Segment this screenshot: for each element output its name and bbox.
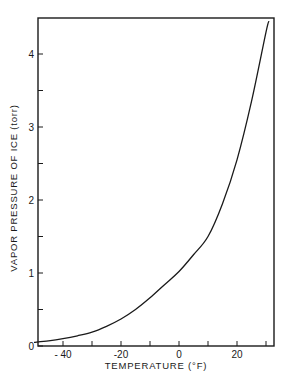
y-tick-label: 0 <box>28 341 34 352</box>
y-tick-label: 1 <box>28 268 34 279</box>
x-tick-label: - 40 <box>54 349 72 360</box>
plot-frame <box>38 18 274 346</box>
y-tick-label: 3 <box>28 122 34 133</box>
x-axis-ticks <box>63 341 266 346</box>
y-axis-ticks <box>38 54 43 346</box>
y-tick-label: 2 <box>28 195 34 206</box>
y-tick-label: 4 <box>28 49 34 60</box>
x-axis-tick-labels: - 40-20020 <box>54 349 243 360</box>
x-tick-label: 20 <box>231 349 243 360</box>
x-tick-label: -20 <box>114 349 129 360</box>
x-tick-label: 0 <box>176 349 182 360</box>
y-axis-tick-labels: 01234 <box>28 49 34 352</box>
y-axis-title: VAPOR PRESSURE OF ICE (torr) <box>8 104 19 271</box>
vapor-pressure-curve <box>34 21 269 342</box>
vapor-pressure-chart: 01234 - 40-20020 TEMPERATURE (°F) VAPOR … <box>0 0 289 385</box>
x-axis-title: TEMPERATURE (°F) <box>105 360 207 371</box>
